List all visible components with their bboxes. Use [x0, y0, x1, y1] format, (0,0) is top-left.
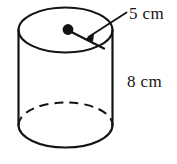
height-dimension-label: 8 cm	[127, 72, 162, 91]
cylinder-figure: 5 cm 8 cm	[0, 0, 177, 164]
center-dot	[63, 24, 74, 35]
radius-arrow-shaft	[89, 13, 127, 38]
cylinder-bottom-face	[19, 125, 113, 147]
radius-dimension-label: 5 cm	[129, 4, 164, 23]
hidden-base-arc	[19, 103, 113, 125]
